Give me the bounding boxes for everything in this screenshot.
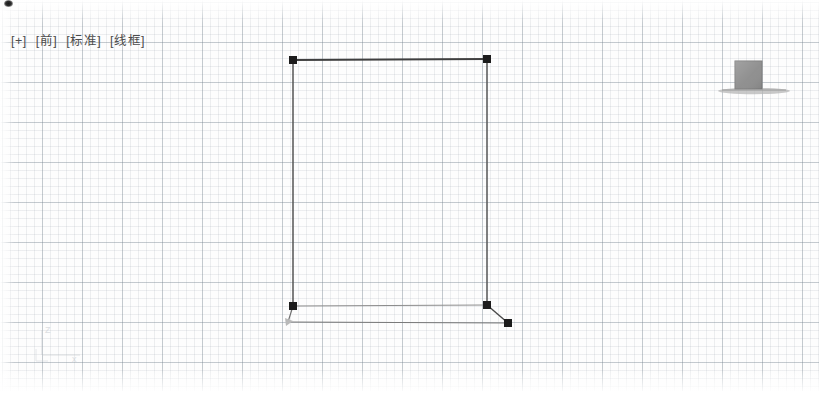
edge-bottom-back[interactable] xyxy=(288,322,508,323)
box-wireframe[interactable] xyxy=(285,59,508,326)
gray-solid-block[interactable] xyxy=(718,61,790,94)
edge-bottom-front[interactable] xyxy=(293,305,487,306)
viewport-visual-style-preset-control[interactable]: [标准] xyxy=(66,30,101,49)
edge-top[interactable] xyxy=(293,59,487,60)
ucs-axis-icon: Z x xyxy=(36,325,80,364)
viewport-expand-control[interactable]: [+] xyxy=(11,34,27,48)
viewport-controls[interactable]: [+] [前] [标准] [线框] xyxy=(11,30,150,49)
viewport-view-control[interactable]: [前] xyxy=(36,30,57,49)
cad-viewport[interactable]: Z x [+] [前] [标准] [线框] xyxy=(0,0,819,394)
grip-bottom-right[interactable] xyxy=(483,301,491,309)
ucs-z-label: Z xyxy=(45,325,51,335)
grip-top-right[interactable] xyxy=(483,55,491,63)
drawing-geometry: Z x xyxy=(0,0,819,394)
ucs-x-label: x xyxy=(72,354,77,364)
solid-shading xyxy=(735,61,762,89)
grip-handles[interactable] xyxy=(289,55,512,327)
grip-back-bottom-right[interactable] xyxy=(504,319,512,327)
viewport-visual-style-control[interactable]: [线框] xyxy=(110,30,145,49)
grip-top-left[interactable] xyxy=(289,56,297,64)
grip-bottom-left[interactable] xyxy=(289,302,297,310)
